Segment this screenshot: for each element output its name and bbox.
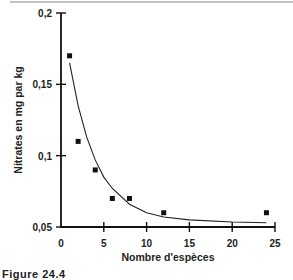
data-point [110, 196, 115, 201]
x-tick-label: 25 [269, 238, 281, 249]
y-tick-label: 0,15 [33, 79, 53, 90]
y-tick-label: 0,05 [33, 222, 53, 233]
y-tick-label: 0,2 [38, 8, 52, 19]
data-point [264, 210, 269, 215]
data-point [161, 210, 166, 215]
axes [60, 13, 275, 228]
x-tick-label: 5 [101, 238, 107, 249]
fitted-curve [70, 63, 267, 223]
data-point [127, 196, 132, 201]
x-tick-label: 20 [227, 238, 239, 249]
x-axis-label: Nombre d'espèces [122, 251, 215, 263]
data-points [67, 53, 269, 215]
data-point [93, 167, 98, 172]
x-tick-label: 0 [58, 238, 64, 249]
y-axis-label: Nitrates en mg par kg [12, 66, 24, 173]
y-tick-label: 0,1 [38, 151, 52, 162]
x-axis-ticks: 0510152025 [58, 222, 281, 249]
x-tick-label: 15 [184, 238, 196, 249]
data-point [76, 139, 81, 144]
figure-caption: Figure 24.4 [2, 268, 66, 280]
x-tick-label: 10 [141, 238, 153, 249]
data-point [67, 53, 72, 58]
